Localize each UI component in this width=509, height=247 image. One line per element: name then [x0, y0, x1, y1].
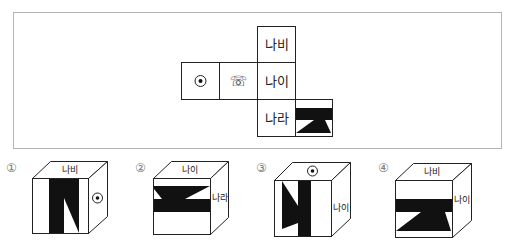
option-number: ④ — [378, 161, 389, 175]
telephone-icon: ☏ — [230, 73, 248, 89]
net-label-middle: 나이 — [265, 74, 289, 89]
cube-right-label: 나이 — [333, 203, 349, 213]
cube-net-question: 나비 나이 나라 ☏ ① 나비 ② 나이 — [0, 0, 509, 247]
net-label-top: 나비 — [265, 37, 289, 52]
cube-right-label: 나이 — [454, 195, 470, 205]
cube-top-label: 나이 — [182, 165, 198, 175]
option-2[interactable]: ② 나이 나라 — [135, 161, 229, 235]
option-number: ① — [6, 161, 17, 175]
option-3[interactable]: ③ 나이 — [256, 161, 351, 237]
option-number: ② — [135, 161, 146, 175]
cube-right-label: 나라 — [212, 193, 229, 203]
net-label-bottom: 나라 — [265, 111, 289, 126]
cube-top-label: 나비 — [424, 167, 440, 177]
option-number: ③ — [256, 161, 267, 175]
cube-top-label: 나비 — [62, 165, 78, 175]
option-1[interactable]: ① 나비 — [6, 161, 108, 234]
option-4[interactable]: ④ 나비 나이 — [378, 161, 472, 238]
